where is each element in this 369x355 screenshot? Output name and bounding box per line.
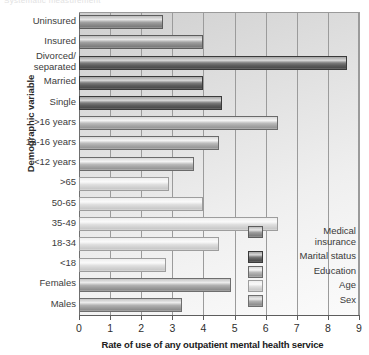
x-tick-mark-0 bbox=[79, 315, 80, 320]
chart-legend: MedicalinsuranceMarital statusEducationA… bbox=[248, 226, 360, 309]
y-tick-label-line: <12 years bbox=[2, 157, 76, 168]
x-tick-mark-4 bbox=[203, 315, 204, 320]
bar-18-34[interactable] bbox=[79, 237, 219, 251]
bar-divorced-separated[interactable] bbox=[79, 56, 347, 70]
y-tick-label-line: Divorced/ bbox=[2, 51, 76, 62]
legend-label-education: Education bbox=[314, 266, 360, 277]
bar-married[interactable] bbox=[79, 76, 203, 90]
legend-swatch-insurance bbox=[248, 226, 263, 238]
bar-females[interactable] bbox=[79, 278, 231, 292]
x-tick-label-9: 9 bbox=[349, 322, 369, 334]
legend-label-line: Sex bbox=[340, 295, 356, 306]
y-tick-label-divorced-separated: Divorced/separated bbox=[2, 51, 76, 72]
x-tick-label-1: 1 bbox=[100, 322, 120, 334]
x-tick-mark-7 bbox=[297, 315, 298, 320]
y-tick-label-line: 50-65 bbox=[2, 198, 76, 209]
y-axis-tick-labels: UninsuredInsuredDivorced/separatedMarrie… bbox=[0, 0, 76, 355]
y-tick-label-line: separated bbox=[2, 62, 76, 73]
y-tick-label-line: Married bbox=[2, 76, 76, 87]
legend-label-sex: Sex bbox=[340, 295, 360, 306]
x-axis-title: Rate of use of any outpatient mental hea… bbox=[60, 339, 365, 350]
bar-uninsured[interactable] bbox=[79, 15, 163, 29]
y-tick-label-line: Single bbox=[2, 97, 76, 108]
bar-row bbox=[79, 76, 359, 90]
x-tick-mark-2 bbox=[141, 315, 142, 320]
y-tick-label-uninsured: Uninsured bbox=[2, 16, 76, 27]
bar-single[interactable] bbox=[79, 96, 222, 110]
x-tick-label-7: 7 bbox=[287, 322, 307, 334]
y-tick-label-line: 18-34 bbox=[2, 238, 76, 249]
bar-row bbox=[79, 35, 359, 49]
bar-50-65[interactable] bbox=[79, 197, 203, 211]
bar-insured[interactable] bbox=[79, 35, 203, 49]
y-tick-label-50-65: 50-65 bbox=[2, 198, 76, 209]
y-tick-label-insured: Insured bbox=[2, 36, 76, 47]
legend-label-line: Marital status bbox=[300, 251, 357, 262]
x-tick-label-6: 6 bbox=[256, 322, 276, 334]
x-tick-label-5: 5 bbox=[225, 322, 245, 334]
y-tick-label-12-years: <12 years bbox=[2, 157, 76, 168]
y-tick-label-line: 12-16 years bbox=[2, 137, 76, 148]
y-tick-label-line: <18 bbox=[2, 258, 76, 269]
legend-item-marital[interactable]: Marital status bbox=[248, 251, 360, 262]
y-tick-label-35-49: 35-49 bbox=[2, 218, 76, 229]
y-tick-label-line: 35-49 bbox=[2, 218, 76, 229]
bar-row bbox=[79, 136, 359, 150]
bar-row bbox=[79, 197, 359, 211]
y-tick-label-line: >65 bbox=[2, 177, 76, 188]
y-tick-label-single: Single bbox=[2, 97, 76, 108]
y-tick-label-married: Married bbox=[2, 76, 76, 87]
x-tick-mark-1 bbox=[110, 315, 111, 320]
x-tick-label-8: 8 bbox=[318, 322, 338, 334]
y-tick-label-females: Females bbox=[2, 278, 76, 289]
y-tick-label-line: Uninsured bbox=[2, 16, 76, 27]
legend-swatch-age bbox=[248, 280, 263, 292]
bar-18[interactable] bbox=[79, 258, 166, 272]
y-tick-label-line: Females bbox=[2, 278, 76, 289]
x-tick-mark-9 bbox=[359, 315, 360, 320]
y-tick-label-12-16-years: 12-16 years bbox=[2, 137, 76, 148]
bar-65[interactable] bbox=[79, 177, 169, 191]
y-tick-label-16-years: >16 years bbox=[2, 117, 76, 128]
y-tick-label-18: <18 bbox=[2, 258, 76, 269]
y-tick-label-line: Insured bbox=[2, 36, 76, 47]
legend-label-insurance: Medicalinsurance bbox=[315, 226, 360, 247]
x-tick-label-3: 3 bbox=[162, 322, 182, 334]
legend-label-line: Age bbox=[339, 280, 356, 291]
bar-chart-figure: Systematic measurement Demographic varia… bbox=[0, 0, 369, 355]
x-tick-mark-3 bbox=[172, 315, 173, 320]
x-tick-mark-6 bbox=[266, 315, 267, 320]
x-tick-label-0: 0 bbox=[69, 322, 89, 334]
bar-12-years[interactable] bbox=[79, 157, 194, 171]
bar-12-16-years[interactable] bbox=[79, 136, 219, 150]
x-tick-mark-8 bbox=[328, 315, 329, 320]
legend-item-education[interactable]: Education bbox=[248, 266, 360, 277]
legend-swatch-education bbox=[248, 266, 263, 278]
bar-row bbox=[79, 116, 359, 130]
y-tick-label-65: >65 bbox=[2, 177, 76, 188]
y-tick-label-males: Males bbox=[2, 299, 76, 310]
legend-item-insurance[interactable]: Medicalinsurance bbox=[248, 226, 360, 247]
legend-item-sex[interactable]: Sex bbox=[248, 295, 360, 306]
bar-row bbox=[79, 96, 359, 110]
bar-row bbox=[79, 177, 359, 191]
bar-males[interactable] bbox=[79, 298, 182, 312]
x-axis-line bbox=[79, 315, 359, 316]
legend-label-line: Education bbox=[314, 266, 356, 277]
bar-16-years[interactable] bbox=[79, 116, 278, 130]
bar-row bbox=[79, 15, 359, 29]
y-tick-label-line: >16 years bbox=[2, 117, 76, 128]
y-tick-label-18-34: 18-34 bbox=[2, 238, 76, 249]
bar-row bbox=[79, 157, 359, 171]
y-tick-label-line: Males bbox=[2, 299, 76, 310]
legend-label-line: insurance bbox=[315, 237, 356, 248]
x-tick-label-4: 4 bbox=[193, 322, 213, 334]
bar-row bbox=[79, 56, 359, 70]
legend-swatch-marital bbox=[248, 251, 263, 263]
legend-label-line: Medical bbox=[315, 226, 356, 237]
x-tick-label-2: 2 bbox=[131, 322, 151, 334]
x-tick-mark-5 bbox=[235, 315, 236, 320]
legend-item-age[interactable]: Age bbox=[248, 280, 360, 291]
legend-label-marital: Marital status bbox=[300, 251, 361, 262]
legend-label-age: Age bbox=[339, 280, 360, 291]
